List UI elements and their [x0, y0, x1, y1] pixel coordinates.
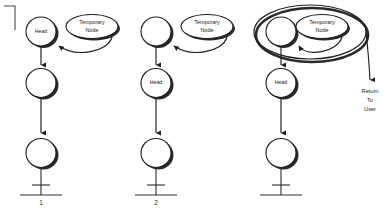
- stage-2-group: Head Temporary Node 2: [135, 15, 235, 206]
- stage-1-node-3[interactable]: [26, 139, 59, 170]
- stage-2-node-2[interactable]: Head: [141, 69, 174, 100]
- stage-3-group: Head Temporary Node: [254, 5, 378, 195]
- stage-1-node-2[interactable]: [26, 69, 59, 100]
- stage-2-null-terminator: [135, 168, 177, 196]
- stage-3-temporary-node-label-line2: Node: [316, 27, 329, 33]
- stage-1-temporary-node-label-line1: Temporary: [79, 19, 105, 25]
- stage-2-node-3[interactable]: [141, 139, 174, 170]
- stage-2-temporary-node[interactable]: Temporary Node: [181, 15, 235, 41]
- stage-3-node-1[interactable]: [266, 17, 299, 48]
- stage-1-number: 1: [39, 199, 43, 206]
- stage-3-temporary-node[interactable]: Temporary Node: [296, 15, 350, 41]
- stage-2-node-2-label: Head: [150, 79, 163, 85]
- crop-mark-corner: [4, 6, 15, 30]
- stage-2-node-1[interactable]: [141, 17, 174, 48]
- stage-3-node-3[interactable]: [266, 139, 299, 170]
- diagram-canvas: Head: [0, 0, 391, 219]
- return-label-line3: User: [364, 106, 376, 112]
- stage-1-null-terminator: [20, 168, 62, 196]
- return-label-line2: To: [367, 97, 373, 103]
- stage-3-node-2[interactable]: Head: [266, 69, 299, 100]
- stage-1-node-1[interactable]: Head: [26, 17, 59, 48]
- stage-3-null-terminator: [260, 168, 302, 196]
- stage-2-temporary-node-label-line1: Temporary: [194, 19, 220, 25]
- stage-1-node-1-label: Head: [35, 28, 48, 34]
- stage-3-return-label: Return To User: [362, 88, 379, 112]
- stage-3-node-2-label: Head: [275, 79, 288, 85]
- return-label-line1: Return: [362, 88, 379, 94]
- stage-1-group: Head: [20, 15, 120, 206]
- stage-3-temporary-node-label-line1: Temporary: [309, 19, 335, 25]
- stage-2-temporary-node-label-line2: Node: [201, 27, 214, 33]
- stage-1-temporary-node[interactable]: Temporary Node: [66, 15, 120, 41]
- stage-1-temporary-node-label-line2: Node: [86, 27, 99, 33]
- stage-2-number: 2: [154, 199, 158, 206]
